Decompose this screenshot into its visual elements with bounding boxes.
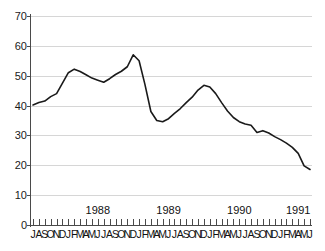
year-tick-label: 1989: [156, 205, 180, 216]
x-axis-tick-mark: [116, 219, 117, 225]
x-axis-tick-mark: [62, 219, 63, 225]
x-axis-tick-mark: [39, 219, 40, 225]
x-axis-tick-mark: [57, 219, 58, 225]
x-axis-tick-mark: [281, 219, 282, 225]
x-axis-tick-mark: [269, 219, 270, 225]
x-axis-tick-mark: [310, 219, 311, 225]
x-axis-tick-mark: [233, 219, 234, 225]
x-axis-tick-mark: [192, 219, 193, 225]
x-axis-tick-mark: [98, 219, 99, 225]
x-axis-tick-mark: [257, 219, 258, 225]
year-tick-label: 1991: [286, 205, 310, 216]
x-axis-tick-mark: [157, 219, 158, 225]
x-axis-tick-mark: [204, 219, 205, 225]
x-axis-tick-mark: [74, 219, 75, 225]
month-tick-label: J: [166, 229, 171, 240]
y-axis-tick-mark: [27, 16, 31, 17]
x-axis-tick-mark: [139, 219, 140, 225]
x-axis-tick-mark: [68, 219, 69, 225]
x-axis-tick-mark: [292, 219, 293, 225]
x-axis-tick-mark: [174, 219, 175, 225]
x-axis-tick-mark: [33, 219, 34, 225]
x-axis-tick-mark: [198, 219, 199, 225]
y-axis-tick-mark: [27, 195, 31, 196]
x-axis-tick-mark: [180, 219, 181, 225]
x-axis-tick-mark: [145, 219, 146, 225]
x-axis-tick-mark: [263, 219, 264, 225]
x-axis-tick-mark: [169, 219, 170, 225]
month-tick-label: J: [237, 229, 242, 240]
y-axis-tick-mark: [27, 165, 31, 166]
y-axis-tick-mark: [27, 106, 31, 107]
x-axis-tick-mark: [133, 219, 134, 225]
x-axis-tick-mark: [86, 219, 87, 225]
x-axis-tick-mark: [251, 219, 252, 225]
x-axis-tick-mark: [92, 219, 93, 225]
chart-screenshot: 010203040506070 JASONDJFMAMJJASONDJFMAMJ…: [0, 0, 325, 251]
x-axis-tick-mark: [222, 219, 223, 225]
x-axis-tick-mark: [104, 219, 105, 225]
x-axis-tick-mark: [245, 219, 246, 225]
y-axis-tick-mark: [27, 225, 31, 226]
x-axis-tick-mark: [304, 219, 305, 225]
x-axis-tick-mark: [163, 219, 164, 225]
x-axis-tick-mark: [45, 219, 46, 225]
x-axis-tick-mark: [80, 219, 81, 225]
month-tick-label: J: [307, 229, 312, 240]
x-axis-tick-mark: [210, 219, 211, 225]
x-axis-tick-mark: [298, 219, 299, 225]
y-axis-tick-mark: [27, 76, 31, 77]
y-axis-tick-mark: [27, 135, 31, 136]
x-axis-tick-mark: [239, 219, 240, 225]
year-tick-label: 1990: [227, 205, 251, 216]
x-axis-tick-mark: [216, 219, 217, 225]
x-axis-tick-mark: [186, 219, 187, 225]
y-axis-tick-mark: [27, 46, 31, 47]
x-axis-tick-mark: [51, 219, 52, 225]
x-axis-tick-mark: [286, 219, 287, 225]
x-axis-tick-mark: [121, 219, 122, 225]
x-axis-tick-mark: [151, 219, 152, 225]
x-axis-ticks: JASONDJFMAMJJASONDJFMAMJJASONDJFMAMJJASO…: [0, 0, 325, 251]
x-axis-tick-mark: [227, 219, 228, 225]
x-axis-tick-mark: [127, 219, 128, 225]
year-tick-label: 1988: [86, 205, 110, 216]
x-axis-tick-mark: [110, 219, 111, 225]
x-axis-tick-mark: [275, 219, 276, 225]
month-tick-label: J: [95, 229, 100, 240]
